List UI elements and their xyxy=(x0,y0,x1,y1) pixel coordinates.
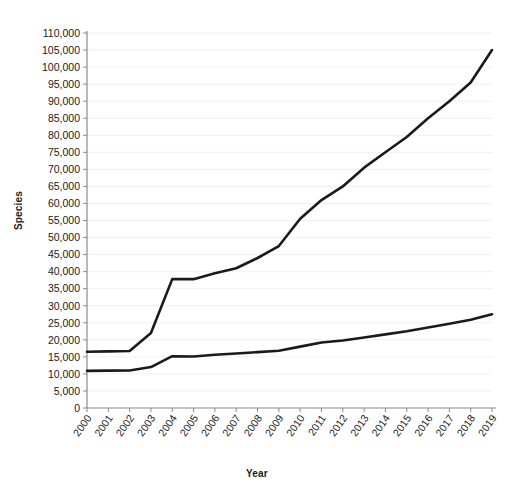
x-tick-label: 2007 xyxy=(220,412,243,438)
x-tick-label: 2011 xyxy=(305,412,328,438)
x-tick-label: 2005 xyxy=(177,412,200,438)
y-tick-label: 10,000 xyxy=(48,368,80,380)
y-tick-label: 25,000 xyxy=(48,317,80,329)
y-tick-label: 90,000 xyxy=(48,95,80,107)
x-tick-label: 2016 xyxy=(411,412,434,438)
y-tick-label: 20,000 xyxy=(48,334,80,346)
x-tick-label: 2018 xyxy=(454,412,477,438)
y-tick-label: 65,000 xyxy=(48,180,80,192)
x-tick-label: 2008 xyxy=(241,412,264,438)
y-tick-label: 0 xyxy=(74,402,80,414)
y-tick-label: 75,000 xyxy=(48,146,80,158)
data-line-upper-series xyxy=(87,50,492,352)
x-tick-label: 2017 xyxy=(433,412,456,438)
y-tick-label: 85,000 xyxy=(48,112,80,124)
y-tick-label: 30,000 xyxy=(48,300,80,312)
y-tick-label: 60,000 xyxy=(48,197,80,209)
x-tick-label: 2000 xyxy=(70,412,93,438)
y-tick-label: 80,000 xyxy=(48,129,80,141)
y-tick-label: 50,000 xyxy=(48,231,80,243)
y-tick-label: 55,000 xyxy=(48,214,80,226)
x-tick-label: 2010 xyxy=(284,412,307,438)
x-tick-label: 2006 xyxy=(198,412,221,438)
x-tick-label: 2009 xyxy=(262,412,285,438)
y-tick-label: 40,000 xyxy=(48,265,80,277)
y-tick-label: 95,000 xyxy=(48,78,80,90)
x-tick-label: 2015 xyxy=(390,412,413,438)
y-tick-label: 5,000 xyxy=(54,385,80,397)
x-tick-label: 2002 xyxy=(113,412,136,438)
x-tick-label: 2019 xyxy=(475,412,498,438)
x-tick-label: 2014 xyxy=(369,412,392,438)
y-tick-label: 110,000 xyxy=(43,27,80,39)
x-tick-label: 2001 xyxy=(92,412,115,438)
chart-container: Species 110,000105,000100,00095,00090,00… xyxy=(0,0,514,489)
x-tick-label: 2013 xyxy=(348,412,371,438)
line-chart-plot: 110,000105,000100,00095,00090,00085,0008… xyxy=(0,0,514,489)
y-tick-label: 35,000 xyxy=(48,282,80,294)
x-tick-label: 2012 xyxy=(326,412,349,438)
x-tick-label: 2003 xyxy=(134,412,157,438)
x-tick-label: 2004 xyxy=(156,412,179,438)
y-tick-label: 70,000 xyxy=(48,163,80,175)
x-axis-title: Year xyxy=(0,468,514,479)
y-tick-label: 100,000 xyxy=(42,61,80,73)
y-tick-label: 15,000 xyxy=(48,351,80,363)
y-tick-label: 105,000 xyxy=(42,44,80,56)
y-tick-label: 45,000 xyxy=(48,248,80,260)
